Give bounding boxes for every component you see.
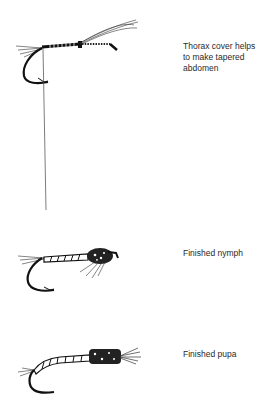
figure-thorax-step	[0, 0, 180, 215]
finished-pupa-illustration	[0, 340, 180, 400]
caption-finished-nymph: Finished nymph	[183, 248, 243, 259]
fly-hook-thorax-illustration	[0, 0, 180, 215]
caption-finished-pupa: Finished pupa	[183, 349, 236, 360]
figure-finished-pupa	[0, 340, 180, 400]
caption-line: to make tapered	[183, 52, 255, 63]
caption-line: Thorax cover helps	[183, 41, 255, 52]
figure-finished-nymph	[0, 240, 180, 300]
caption-line: Finished nymph	[183, 248, 243, 259]
caption-line: abdomen	[183, 63, 255, 74]
finished-nymph-illustration	[0, 240, 180, 300]
caption-line: Finished pupa	[183, 349, 236, 360]
caption-thorax-step: Thorax cover helps to make tapered abdom…	[183, 41, 255, 74]
